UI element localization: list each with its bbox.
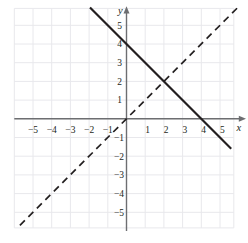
y-tick-label: 5 <box>117 21 122 31</box>
y-tick-label: −4 <box>114 189 124 199</box>
y-tick-label: 3 <box>117 58 122 68</box>
y-tick-label: −1 <box>114 133 124 143</box>
x-tick-label: 3 <box>183 125 188 135</box>
x-tick-label: −4 <box>47 125 57 135</box>
x-tick-label: 4 <box>201 125 206 135</box>
x-tick-label: 2 <box>164 125 169 135</box>
y-tick-label: −5 <box>114 208 124 218</box>
y-tick-label: 4 <box>117 39 122 49</box>
x-tick-label: −5 <box>28 125 38 135</box>
x-tick-label: −1 <box>103 125 113 135</box>
y-axis-label: y <box>117 5 123 16</box>
coordinate-plane: x y −5 −4 −3 −2 −1 1 2 3 4 5 5 4 3 2 1 −… <box>0 0 248 243</box>
y-tick-label: −2 <box>114 152 124 162</box>
y-tick-label: 1 <box>117 95 122 105</box>
y-tick-label: −3 <box>114 170 124 180</box>
graph-figure: x y −5 −4 −3 −2 −1 1 2 3 4 5 5 4 3 2 1 −… <box>0 0 248 243</box>
y-tick-label: 2 <box>117 77 122 87</box>
x-tick-label: 5 <box>220 125 225 135</box>
dashed-line-series <box>20 8 238 226</box>
x-tick-label: −2 <box>84 125 94 135</box>
x-axis-label: x <box>236 122 242 133</box>
x-tick-label: 1 <box>145 125 150 135</box>
x-tick-label: −3 <box>65 125 75 135</box>
y-axis-arrow <box>124 6 130 13</box>
